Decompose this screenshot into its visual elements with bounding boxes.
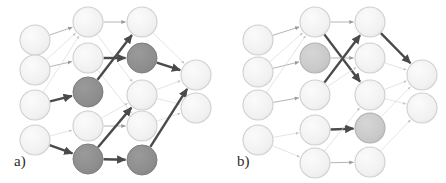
node-inactive[interactable]	[127, 7, 157, 37]
node-inactive[interactable]	[355, 43, 385, 73]
panel-a-label: a)	[14, 153, 26, 170]
edge-faint	[328, 67, 356, 86]
panel-a-hidden-layer-2	[127, 7, 157, 175]
panel-a-input-layer	[20, 25, 50, 155]
node-inactive[interactable]	[407, 60, 437, 90]
node-inactive[interactable]	[181, 93, 211, 123]
edge-light	[273, 62, 299, 68]
node-inactive[interactable]	[127, 80, 157, 110]
node-inactive[interactable]	[300, 115, 330, 145]
edge-faint	[50, 130, 72, 136]
edge-faint	[157, 99, 180, 105]
panel-a-hidden-layer-1	[73, 7, 103, 174]
edge-faint	[157, 81, 181, 90]
panel-b-label: b)	[237, 153, 250, 170]
edge-strong	[50, 145, 73, 153]
edge-faint	[381, 87, 411, 117]
edge-faint	[46, 33, 75, 60]
edge-faint	[381, 120, 411, 151]
node-inactive[interactable]	[127, 111, 157, 141]
edge-faint	[273, 133, 298, 137]
node-inactive[interactable]	[181, 60, 211, 90]
edge-faint	[272, 146, 299, 157]
edge-faint	[153, 33, 184, 64]
edge-faint	[384, 81, 406, 90]
node-inactive[interactable]	[243, 125, 273, 155]
node-inactive[interactable]	[73, 43, 103, 73]
node-active[interactable]	[127, 43, 157, 73]
node-inactive[interactable]	[300, 80, 330, 110]
edge-light	[50, 27, 73, 35]
node-inactive[interactable]	[243, 57, 273, 87]
node-inactive[interactable]	[407, 93, 437, 123]
node-inactive[interactable]	[73, 7, 103, 37]
node-inactive[interactable]	[355, 80, 385, 110]
panel-b-hidden-layer-2	[355, 7, 385, 177]
node-inactive[interactable]	[73, 111, 103, 141]
node-inactive[interactable]	[20, 55, 50, 85]
edge-strong	[50, 96, 72, 101]
node-inactive[interactable]	[20, 125, 50, 155]
node-inactive[interactable]	[300, 148, 330, 178]
edge-light	[273, 98, 298, 102]
node-semi-active[interactable]	[355, 113, 385, 143]
panel-b-output-layer	[407, 60, 437, 123]
node-inactive[interactable]	[20, 25, 50, 55]
edge-light	[273, 27, 299, 35]
node-active[interactable]	[73, 144, 103, 174]
node-semi-active[interactable]	[300, 43, 330, 73]
panel-b-hidden-layer-1	[300, 7, 330, 178]
nodes-layer	[20, 7, 437, 178]
edge-strong	[157, 63, 180, 70]
edge-faint	[385, 99, 406, 104]
network-diagram-figure: a) b)	[0, 0, 446, 183]
figure-root: a) b)	[0, 0, 446, 183]
node-active[interactable]	[73, 77, 103, 107]
node-inactive[interactable]	[243, 25, 273, 55]
node-active[interactable]	[127, 145, 157, 175]
node-inactive[interactable]	[20, 90, 50, 120]
node-inactive[interactable]	[243, 90, 273, 120]
node-inactive[interactable]	[355, 147, 385, 177]
node-inactive[interactable]	[355, 7, 385, 37]
node-inactive[interactable]	[300, 7, 330, 37]
edge-faint	[385, 63, 407, 70]
